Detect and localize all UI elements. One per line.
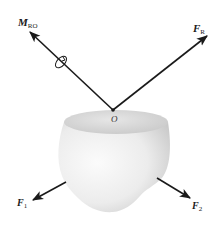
f1-label: F1 xyxy=(16,197,28,210)
origin-label: O xyxy=(111,114,118,124)
rigid-body xyxy=(58,110,170,212)
f2-label: F2 xyxy=(191,200,203,213)
m-ro-label: MRO xyxy=(17,16,38,30)
f-r-label: FR xyxy=(192,22,205,36)
force-vector-f2: F2 xyxy=(157,178,203,213)
moment-vector-m-ro: MRO xyxy=(17,16,113,110)
force-vector-f1: F1 xyxy=(16,182,66,210)
force-vector-f-r: FR xyxy=(113,22,207,110)
force-system-diagram: MRO FR O F1 F2 xyxy=(0,0,221,231)
body-shape xyxy=(58,122,170,212)
